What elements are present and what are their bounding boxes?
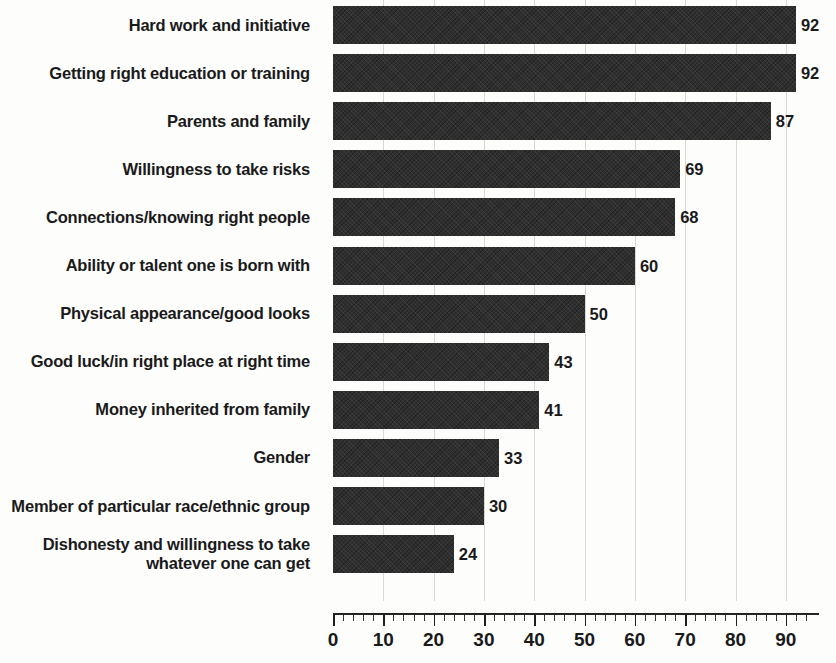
axis-minor-tick xyxy=(524,615,525,621)
bar-value-label: 68 xyxy=(675,198,698,236)
axis-major-tick xyxy=(484,615,486,626)
axis-tick-label: 40 xyxy=(524,629,545,651)
axis-minor-tick xyxy=(776,615,777,621)
bar-value-label: 60 xyxy=(635,247,658,285)
axis-tick-label: 30 xyxy=(473,629,494,651)
axis-major-tick xyxy=(736,615,738,626)
axis-minor-tick xyxy=(504,615,505,621)
axis-minor-tick xyxy=(373,615,374,621)
axis-major-tick xyxy=(685,615,687,626)
category-label-column: Hard work and initiativeGetting right ed… xyxy=(0,0,322,601)
axis-major-tick xyxy=(786,615,788,626)
axis-minor-tick xyxy=(464,615,465,621)
axis-minor-tick xyxy=(675,615,676,621)
bar xyxy=(333,247,635,285)
axis-minor-tick xyxy=(595,615,596,621)
axis-minor-tick xyxy=(746,615,747,621)
category-label: Physical appearance/good looks xyxy=(0,304,310,323)
axis-tick-label: 90 xyxy=(775,629,796,651)
axis-tick-label: 50 xyxy=(574,629,595,651)
bar-value-label: 41 xyxy=(539,391,562,429)
bar xyxy=(333,198,675,236)
bar xyxy=(333,439,499,477)
bar-chart: Hard work and initiativeGetting right ed… xyxy=(0,0,836,663)
axis-minor-tick xyxy=(343,615,344,621)
bar xyxy=(333,487,484,525)
category-label: Hard work and initiative xyxy=(0,16,310,35)
axis-minor-tick xyxy=(353,615,354,621)
bar xyxy=(333,343,549,381)
bar-value-label: 69 xyxy=(680,150,703,188)
bar-value-label: 30 xyxy=(484,487,507,525)
axis-minor-tick xyxy=(494,615,495,621)
category-label: Willingness to take risks xyxy=(0,160,310,179)
axis-minor-tick xyxy=(474,615,475,621)
axis-major-tick xyxy=(534,615,536,626)
axis-minor-tick xyxy=(564,615,565,621)
axis-major-tick xyxy=(333,615,335,626)
category-label: Ability or talent one is born with xyxy=(0,256,310,275)
axis-minor-tick xyxy=(514,615,515,621)
bar xyxy=(333,535,454,573)
axis-major-tick xyxy=(434,615,436,626)
bar xyxy=(333,295,585,333)
axis-major-tick xyxy=(585,615,587,626)
bar xyxy=(333,6,796,44)
category-label: Connections/knowing right people xyxy=(0,208,310,227)
category-label: Parents and family xyxy=(0,112,310,131)
category-label: Member of particular race/ethnic group xyxy=(0,497,310,516)
axis-tick-label: 80 xyxy=(725,629,746,651)
bar xyxy=(333,391,539,429)
axis-tick-label: 70 xyxy=(675,629,696,651)
x-axis: 0102030405060708090 xyxy=(333,601,819,663)
axis-major-tick xyxy=(635,615,637,626)
axis-minor-tick xyxy=(806,615,807,621)
axis-minor-tick xyxy=(625,615,626,621)
axis-minor-tick xyxy=(796,615,797,621)
bar-value-label: 33 xyxy=(499,439,522,477)
axis-minor-tick xyxy=(444,615,445,621)
bar xyxy=(333,150,680,188)
axis-minor-tick xyxy=(655,615,656,621)
bar-value-label: 43 xyxy=(549,343,572,381)
axis-minor-tick xyxy=(766,615,767,621)
axis-minor-tick xyxy=(725,615,726,621)
bar xyxy=(333,54,796,92)
axis-minor-tick xyxy=(715,615,716,621)
axis-minor-tick xyxy=(424,615,425,621)
axis-minor-tick xyxy=(454,615,455,621)
axis-minor-tick xyxy=(363,615,364,621)
category-label: Dishonesty and willingness to take whate… xyxy=(0,535,310,573)
category-label: Gender xyxy=(0,448,310,467)
axis-tick-label: 10 xyxy=(373,629,394,651)
axis-minor-tick xyxy=(665,615,666,621)
bar-value-label: 92 xyxy=(796,54,819,92)
axis-minor-tick xyxy=(705,615,706,621)
category-label: Money inherited from family xyxy=(0,400,310,419)
axis-major-tick xyxy=(383,615,385,626)
axis-minor-tick xyxy=(414,615,415,621)
category-label: Getting right education or training xyxy=(0,64,310,83)
axis-minor-tick xyxy=(403,615,404,621)
bar xyxy=(333,102,771,140)
category-label: Good luck/in right place at right time xyxy=(0,352,310,371)
axis-minor-tick xyxy=(544,615,545,621)
axis-tick-label: 0 xyxy=(328,629,339,651)
axis-minor-tick xyxy=(605,615,606,621)
bar-value-label: 87 xyxy=(771,102,794,140)
bar-value-label: 24 xyxy=(454,535,477,573)
axis-minor-tick xyxy=(695,615,696,621)
axis-tick-label: 20 xyxy=(423,629,444,651)
axis-tick-label: 60 xyxy=(624,629,645,651)
bar-value-label: 92 xyxy=(796,6,819,44)
axis-minor-tick xyxy=(393,615,394,621)
axis-minor-tick xyxy=(756,615,757,621)
axis-minor-tick xyxy=(645,615,646,621)
axis-minor-tick xyxy=(615,615,616,621)
plot-area: 929287696860504341333024 xyxy=(333,0,816,601)
axis-minor-tick xyxy=(575,615,576,621)
axis-minor-tick xyxy=(554,615,555,621)
bar-value-label: 50 xyxy=(585,295,608,333)
